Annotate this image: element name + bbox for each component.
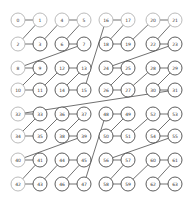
- diagram-svg: 0123456789101112131415161718192021222324…: [0, 0, 194, 202]
- node-46: 46: [55, 177, 69, 191]
- node-11: 11: [33, 83, 47, 97]
- node-63: 63: [168, 177, 182, 191]
- edge-19-20: [133, 25, 148, 39]
- node-label: 41: [37, 158, 43, 163]
- node-label: 30: [150, 88, 156, 93]
- node-label: 55: [172, 134, 178, 139]
- node-34: 34: [11, 129, 25, 143]
- node-26: 26: [99, 83, 113, 97]
- edge-37-38: [67, 119, 79, 131]
- node-15: 15: [77, 83, 91, 97]
- node-label: 13: [81, 66, 87, 71]
- node-label: 10: [15, 88, 21, 93]
- node-41: 41: [33, 153, 47, 167]
- node-60: 60: [146, 153, 160, 167]
- node-7: 7: [77, 37, 91, 51]
- edge-3-4: [45, 25, 58, 39]
- node-label: 8: [17, 66, 20, 71]
- node-6: 6: [55, 37, 69, 51]
- node-28: 28: [146, 61, 160, 75]
- node-label: 16: [103, 18, 109, 23]
- edge-59-60: [133, 165, 148, 179]
- node-label: 60: [150, 158, 156, 163]
- node-40: 40: [11, 153, 25, 167]
- node-27: 27: [121, 83, 135, 97]
- node-label: 54: [150, 134, 156, 139]
- edge-61-62: [158, 165, 171, 179]
- node-44: 44: [55, 153, 69, 167]
- node-label: 31: [172, 88, 178, 93]
- edge-53-54: [158, 119, 170, 131]
- node-label: 42: [15, 182, 21, 187]
- node-9: 9: [33, 61, 47, 75]
- node-42: 42: [11, 177, 25, 191]
- node-38: 38: [55, 129, 69, 143]
- node-label: 57: [125, 158, 131, 163]
- node-label: 19: [125, 42, 131, 47]
- node-22: 22: [146, 37, 160, 51]
- node-label: 36: [59, 112, 65, 117]
- node-37: 37: [77, 107, 91, 121]
- edge-31-32: [25, 91, 168, 113]
- node-label: 58: [103, 182, 109, 187]
- node-24: 24: [99, 61, 113, 75]
- node-label: 4: [61, 18, 64, 23]
- node-label: 48: [103, 112, 109, 117]
- node-label: 3: [39, 42, 42, 47]
- node-32: 32: [11, 107, 25, 121]
- node-label: 20: [150, 18, 156, 23]
- edge-57-58: [111, 165, 124, 179]
- edge-33-34: [23, 119, 35, 131]
- node-17: 17: [121, 13, 135, 27]
- node-10: 10: [11, 83, 25, 97]
- node-33: 33: [33, 107, 47, 121]
- node-label: 39: [81, 134, 87, 139]
- node-52: 52: [146, 107, 160, 121]
- node-label: 25: [125, 66, 131, 71]
- node-label: 17: [125, 18, 131, 23]
- edge-13-14: [67, 73, 79, 85]
- node-label: 26: [103, 88, 109, 93]
- node-label: 32: [15, 112, 21, 117]
- node-label: 0: [17, 18, 20, 23]
- node-label: 56: [103, 158, 109, 163]
- z-order-curve-diagram: 0123456789101112131415161718192021222324…: [0, 0, 194, 202]
- node-0: 0: [11, 13, 25, 27]
- node-label: 44: [59, 158, 65, 163]
- edge-23-24: [113, 46, 169, 65]
- node-label: 22: [150, 42, 156, 47]
- node-label: 61: [172, 158, 178, 163]
- edge-41-42: [23, 165, 36, 179]
- node-23: 23: [168, 37, 182, 51]
- edge-43-44: [45, 165, 58, 179]
- edge-11-12: [45, 73, 57, 85]
- node-label: 38: [59, 134, 65, 139]
- node-56: 56: [99, 153, 113, 167]
- edge-25-26: [111, 73, 123, 85]
- node-label: 51: [125, 134, 131, 139]
- node-2: 2: [11, 37, 25, 51]
- node-label: 1: [39, 18, 42, 23]
- node-5: 5: [77, 13, 91, 27]
- node-20: 20: [146, 13, 160, 27]
- node-label: 59: [125, 182, 131, 187]
- node-62: 62: [146, 177, 160, 191]
- node-55: 55: [168, 129, 182, 143]
- node-label: 7: [83, 42, 86, 47]
- node-3: 3: [33, 37, 47, 51]
- node-43: 43: [33, 177, 47, 191]
- node-51: 51: [121, 129, 135, 143]
- edge-27-28: [133, 73, 147, 86]
- node-47: 47: [77, 177, 91, 191]
- edge-17-18: [111, 25, 124, 39]
- node-label: 33: [37, 112, 43, 117]
- node-35: 35: [33, 129, 47, 143]
- node-label: 50: [103, 134, 109, 139]
- node-label: 5: [83, 18, 86, 23]
- node-label: 11: [37, 88, 43, 93]
- node-4: 4: [55, 13, 69, 27]
- node-57: 57: [121, 153, 135, 167]
- node-54: 54: [146, 129, 160, 143]
- node-48: 48: [99, 107, 113, 121]
- node-45: 45: [77, 153, 91, 167]
